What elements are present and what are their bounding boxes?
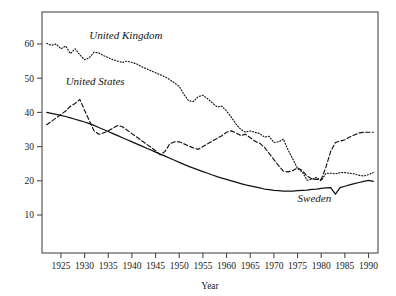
- x-tick-label: 1985: [335, 261, 354, 271]
- x-tick-label: 1990: [359, 261, 378, 271]
- chart-background: [0, 0, 396, 296]
- series-label-sweden: Sweden: [298, 192, 332, 204]
- x-tick-label: 1955: [193, 261, 212, 271]
- x-tick-label: 1935: [99, 261, 118, 271]
- x-tick-label: 1940: [122, 261, 141, 271]
- series-label-united-kingdom: United Kingdom: [89, 29, 162, 41]
- series-label-united-states: United States: [66, 75, 125, 87]
- x-tick-label: 1945: [146, 261, 165, 271]
- y-tick-label: 40: [25, 108, 35, 118]
- x-axis-title: Year: [201, 281, 219, 291]
- x-tick-label: 1980: [312, 261, 331, 271]
- x-tick-label: 1950: [170, 261, 189, 271]
- y-tick-label: 60: [25, 39, 35, 49]
- y-tick-label: 30: [25, 142, 35, 152]
- x-tick-label: 1970: [264, 261, 283, 271]
- chart-figure: 1020304050601925193019351940194519501955…: [0, 0, 396, 296]
- x-tick-label: 1960: [217, 261, 236, 271]
- x-tick-label: 1975: [288, 261, 307, 271]
- x-tick-label: 1965: [241, 261, 260, 271]
- x-tick-label: 1925: [51, 261, 70, 271]
- y-tick-label: 10: [25, 210, 35, 220]
- y-tick-label: 20: [25, 176, 35, 186]
- x-tick-label: 1930: [75, 261, 94, 271]
- y-tick-label: 50: [25, 74, 35, 84]
